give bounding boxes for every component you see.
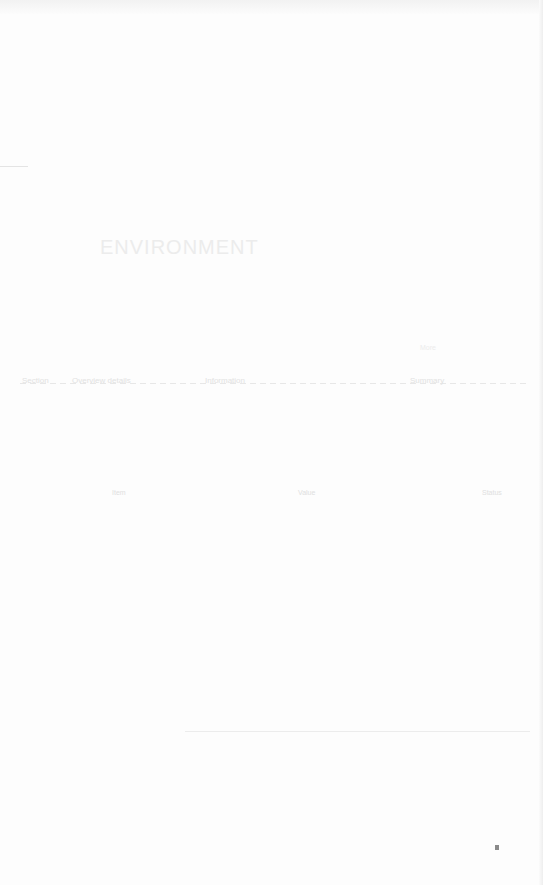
cursor-icon bbox=[495, 845, 499, 850]
column-header: Value bbox=[298, 489, 315, 496]
scrollbar[interactable] bbox=[539, 0, 543, 885]
row-item[interactable]: Overview details bbox=[72, 376, 131, 385]
divider bbox=[0, 166, 28, 167]
row-item[interactable]: Summary bbox=[410, 376, 444, 385]
row-item[interactable]: Section bbox=[22, 376, 49, 385]
divider bbox=[185, 731, 530, 732]
top-bar bbox=[0, 0, 543, 14]
column-header: Item bbox=[112, 489, 126, 496]
column-header: Status bbox=[482, 489, 502, 496]
page-title: ENVIRONMENT bbox=[100, 236, 430, 259]
side-link[interactable]: More bbox=[420, 344, 436, 351]
row-item[interactable]: Information bbox=[205, 376, 245, 385]
